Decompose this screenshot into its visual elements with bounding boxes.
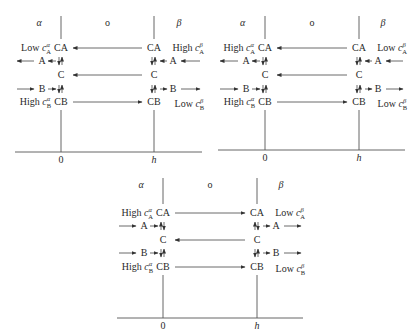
conc-label-alpha-a-text: High cαA​ bbox=[223, 41, 255, 55]
interface-exchange-icon bbox=[357, 85, 360, 93]
tick-h: h bbox=[152, 154, 157, 165]
species-b-alpha: B bbox=[39, 83, 46, 94]
species-b-beta: B bbox=[170, 83, 177, 94]
conc-label-alpha-b: High cαB​ bbox=[224, 95, 256, 109]
species-a-alpha: A bbox=[242, 55, 250, 66]
species-a-beta: A bbox=[169, 55, 177, 66]
species-b-alpha: B bbox=[141, 247, 148, 258]
species-cb-right: CB bbox=[352, 96, 366, 107]
species-cb-left: CB bbox=[258, 96, 272, 107]
phase-label-beta: β bbox=[380, 17, 386, 28]
conc-label-beta-b: Low cβB​ bbox=[378, 97, 408, 111]
species-c-right: C bbox=[356, 69, 363, 80]
conc-label-alpha-b: High cαB​ bbox=[122, 260, 154, 274]
phase-label-organic: o bbox=[310, 17, 315, 28]
interface-exchange-icon bbox=[59, 57, 62, 65]
species-ca-right: CA bbox=[352, 42, 367, 53]
conc-label-alpha-a: Low cαA​ bbox=[21, 41, 51, 55]
phase-label-beta: β bbox=[176, 17, 182, 28]
species-a-alpha: A bbox=[38, 55, 46, 66]
species-cb-right: CB bbox=[250, 261, 264, 272]
conc-label-beta-a-text: Low cβA​ bbox=[275, 206, 305, 220]
species-cb-left: CB bbox=[54, 96, 68, 107]
tick-0: 0 bbox=[161, 320, 166, 330]
conc-label-alpha-b-text: High cαB​ bbox=[122, 260, 154, 274]
phase-label-alpha: α bbox=[240, 17, 246, 28]
interface-exchange-icon bbox=[161, 222, 164, 230]
species-c-left: C bbox=[160, 234, 167, 245]
conc-label-alpha-b: High cαB​ bbox=[20, 95, 52, 109]
interface-exchange-icon bbox=[152, 57, 155, 65]
phase-label-organic: o bbox=[105, 17, 110, 28]
species-ca-left: CA bbox=[54, 42, 69, 53]
conc-label-alpha-a-text: High cαA​ bbox=[121, 206, 153, 220]
panel-3: 0hαoβCACACCCBCBAABBHigh cαA​High cαB​Low… bbox=[117, 178, 306, 330]
species-cb-left: CB bbox=[156, 261, 170, 272]
conc-label-beta-b-text: Low cβB​ bbox=[175, 97, 205, 111]
tick-0: 0 bbox=[263, 152, 268, 163]
conc-label-alpha-a: High cαA​ bbox=[223, 41, 255, 55]
species-c-left: C bbox=[262, 69, 269, 80]
transport-diagram: 0hαoβCACACCCBCBAABBLow cαA​High cαB​High… bbox=[0, 0, 419, 330]
interface-exchange-icon bbox=[263, 85, 266, 93]
phase-label-alpha: α bbox=[36, 17, 42, 28]
species-a-alpha: A bbox=[140, 220, 148, 231]
conc-label-alpha-a: High cαA​ bbox=[121, 206, 153, 220]
conc-label-beta-a-text: High cβA​ bbox=[173, 41, 205, 55]
conc-label-beta-b-text: Low cβB​ bbox=[276, 262, 306, 276]
interface-exchange-icon bbox=[161, 249, 164, 257]
interface-exchange-icon bbox=[59, 85, 62, 93]
conc-label-beta-b-text: Low cβB​ bbox=[378, 97, 408, 111]
conc-label-beta-a: Low cβA​ bbox=[377, 41, 407, 55]
species-a-beta: A bbox=[272, 220, 280, 231]
species-b-beta: B bbox=[375, 83, 382, 94]
phase-label-alpha: α bbox=[138, 179, 144, 190]
interface-exchange-icon bbox=[263, 57, 266, 65]
species-b-alpha: B bbox=[243, 83, 250, 94]
conc-label-alpha-a-text: Low cαA​ bbox=[21, 41, 51, 55]
conc-label-beta-b: Low cβB​ bbox=[175, 97, 205, 111]
conc-label-beta-a-text: Low cβA​ bbox=[377, 41, 407, 55]
panel-1: 0hαoβCACACCCBCBAABBLow cαA​High cαB​High… bbox=[15, 16, 205, 165]
species-b-beta: B bbox=[273, 247, 280, 258]
species-ca-right: CA bbox=[250, 207, 265, 218]
interface-exchange-icon bbox=[255, 222, 258, 230]
tick-h: h bbox=[255, 320, 260, 330]
conc-label-alpha-b-text: High cαB​ bbox=[224, 95, 256, 109]
phase-label-beta: β bbox=[278, 179, 284, 190]
conc-label-beta-a: High cβA​ bbox=[173, 41, 205, 55]
tick-0: 0 bbox=[59, 154, 64, 165]
conc-label-beta-a: Low cβA​ bbox=[275, 206, 305, 220]
species-c-left: C bbox=[58, 69, 65, 80]
interface-exchange-icon bbox=[357, 57, 360, 65]
interface-exchange-icon bbox=[152, 85, 155, 93]
conc-label-beta-b: Low cβB​ bbox=[276, 262, 306, 276]
species-ca-left: CA bbox=[258, 42, 273, 53]
species-cb-right: CB bbox=[147, 96, 161, 107]
phase-label-organic: o bbox=[208, 179, 213, 190]
species-c-right: C bbox=[254, 234, 261, 245]
conc-label-alpha-b-text: High cαB​ bbox=[20, 95, 52, 109]
tick-h: h bbox=[357, 152, 362, 163]
species-ca-left: CA bbox=[156, 207, 171, 218]
species-ca-right: CA bbox=[147, 42, 162, 53]
species-a-beta: A bbox=[374, 55, 382, 66]
species-c-right: C bbox=[151, 69, 158, 80]
panel-2: 0hαoβCACACCCBCBAABBHigh cαA​High cαB​Low… bbox=[218, 16, 408, 163]
interface-exchange-icon bbox=[255, 249, 258, 257]
